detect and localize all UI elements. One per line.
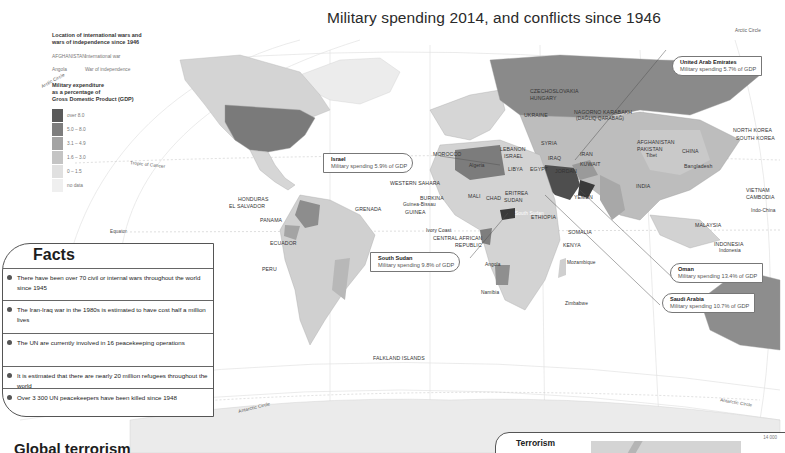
bullet-icon bbox=[7, 307, 12, 312]
label-el-salvador: EL SALVADOR bbox=[229, 203, 265, 209]
wars-legend-heading: Location of international wars and wars … bbox=[52, 32, 202, 46]
callout-uae: United Arab Emirates Military spending 5… bbox=[672, 56, 762, 76]
label-ivory-coast: Ivory Coast bbox=[426, 228, 451, 233]
label-vietnam: VIETNAM bbox=[746, 187, 770, 193]
label-iraq: IRAQ bbox=[548, 155, 561, 161]
terrorism-chart bbox=[591, 441, 741, 453]
label-india: INDIA bbox=[636, 183, 650, 189]
label-grenada: GRENADA bbox=[355, 206, 381, 212]
label-namibia: Namibia bbox=[481, 290, 499, 295]
bullet-icon bbox=[7, 373, 12, 378]
label-algeria: Algeria bbox=[469, 163, 485, 168]
label-cambodia: CAMBODIA bbox=[746, 194, 774, 200]
label-burkina: BURKINA bbox=[420, 195, 444, 201]
swatch bbox=[52, 109, 63, 122]
label-nagorno-karabakh: NAGORNO KARABAKH bbox=[574, 109, 632, 115]
facts-box: Facts There have been over 70 civil or i… bbox=[2, 243, 214, 417]
label-sudan: SUDAN bbox=[504, 197, 523, 203]
label-malaysia: MALAYSIA bbox=[695, 222, 721, 228]
swatch bbox=[52, 165, 63, 178]
label-eritrea: ERITREA bbox=[505, 190, 528, 196]
fact-item: The UN are currently involved in 16 peac… bbox=[3, 333, 213, 363]
label-iran: IRAN bbox=[580, 151, 593, 157]
label-south-korea: SOUTH KOREA bbox=[736, 135, 775, 141]
bullet-icon bbox=[7, 395, 12, 400]
label-kenya: KENYA bbox=[563, 242, 581, 248]
swatch bbox=[52, 179, 63, 192]
label-mozambique: Mozambique bbox=[567, 260, 595, 265]
legend-class: no data bbox=[52, 179, 202, 192]
label-ecuador: ECUADOR bbox=[270, 240, 297, 246]
label-hungary: HUNGARY bbox=[530, 95, 557, 101]
label-morocco: MOROCCO bbox=[433, 151, 461, 157]
label-china: CHINA bbox=[682, 148, 699, 154]
terrorism-panel: Terrorism 14 000 bbox=[495, 432, 785, 453]
legend-class: 1.6 – 3.0 bbox=[52, 151, 202, 164]
fact-item: Over 3 300 UN peacekeepers have been kil… bbox=[3, 388, 213, 418]
label-indonesia-caps: INDONESIA bbox=[714, 241, 743, 247]
label-jordan: JORDAN bbox=[555, 168, 577, 174]
south-sudan bbox=[500, 208, 515, 220]
map-title: Military spending 2014, and conflicts si… bbox=[327, 9, 661, 27]
callout-israel: Israel Military spending 5.9% of GDP bbox=[323, 153, 413, 173]
fact-item: There have been over 70 civil or interna… bbox=[3, 269, 213, 299]
label-angola: Angola bbox=[485, 262, 501, 267]
label-kuwait: KUWAIT bbox=[580, 161, 601, 167]
madagascar bbox=[558, 258, 566, 278]
label-central-african-republic-2: REPUBLIC bbox=[455, 242, 482, 248]
legend-swatches: over 8.0 5.0 – 8.0 3.1 – 4.9 1.6 – 3.0 0… bbox=[52, 109, 202, 192]
namibia bbox=[495, 265, 510, 285]
terrorism-bar bbox=[617, 441, 642, 453]
legend-class: 5.0 – 8.0 bbox=[52, 123, 202, 136]
label-lebanon: LEBANON bbox=[500, 146, 526, 152]
bullet-icon bbox=[7, 275, 12, 280]
label-north-korea: NORTH KOREA bbox=[733, 127, 772, 133]
label-zimbabwe: Zimbabwe bbox=[565, 301, 588, 306]
swatch bbox=[52, 151, 63, 164]
label-ukraine: UKRAINE bbox=[524, 112, 548, 118]
label-falkland-islands: FALKLAND ISLANDS bbox=[373, 355, 425, 361]
facts-title: Facts bbox=[33, 246, 75, 264]
label-indo-china: Indo-China bbox=[751, 208, 775, 213]
bullet-icon bbox=[7, 340, 12, 345]
spending-legend-heading: Military expenditure as a percentage of … bbox=[52, 82, 202, 103]
legend-class: 0 – 1.5 bbox=[52, 165, 202, 178]
indonesia bbox=[650, 215, 720, 248]
arctic-circle-label-right: Arctic Circle bbox=[735, 28, 761, 33]
callout-saudi-arabia: Saudi Arabia Military spending 10.7% of … bbox=[662, 293, 755, 313]
label-honduras: HONDURAS bbox=[238, 196, 269, 202]
label-western-sahara: WESTERN SAHARA bbox=[390, 180, 440, 186]
label-guinea-bissau: Guinea-Bissau bbox=[403, 202, 436, 207]
equator-label: Equator bbox=[110, 229, 127, 234]
fact-item: The Iran-Iraq war in the 1980s is estima… bbox=[3, 300, 213, 330]
label-mali: MALI bbox=[468, 193, 481, 199]
label-chad: CHAD bbox=[486, 195, 501, 201]
label-libya: LIBYA bbox=[508, 166, 523, 172]
terrorism-axis-top: 14 000 bbox=[763, 435, 777, 440]
label-somalia: SOMALIA bbox=[568, 229, 592, 235]
label-indonesia: Indonesia bbox=[719, 248, 741, 253]
label-panama: PANAMA bbox=[260, 217, 282, 223]
label-central-african-republic: CENTRAL AFRICAN bbox=[433, 235, 482, 241]
mexico-central-america bbox=[250, 150, 295, 190]
legend-class: over 8.0 bbox=[52, 109, 202, 122]
label-egypt: EGYPT bbox=[530, 166, 548, 172]
legend-class: 3.1 – 4.9 bbox=[52, 137, 202, 150]
label-guinea: GUINEA bbox=[405, 209, 426, 215]
swatch bbox=[52, 137, 63, 150]
label-tibet: Tibet bbox=[646, 153, 657, 158]
label-nagorno-sub: (DAĞLIQ QARABAĞ) bbox=[576, 116, 624, 121]
label-yemen: YEMEN bbox=[574, 194, 593, 200]
terrorism-title: Terrorism bbox=[516, 438, 555, 448]
label-pakistan: PAKISTAN bbox=[637, 146, 663, 152]
label-south-sudan: South Sudan bbox=[515, 211, 544, 216]
callout-oman: Oman Military spending 13.4% of GDP bbox=[670, 263, 763, 283]
label-peru: PERU bbox=[262, 266, 277, 272]
label-israel: ISRAEL bbox=[504, 153, 523, 159]
label-afghanistan: AFGHANISTAN bbox=[637, 139, 675, 145]
label-bangladesh: Bangladesh bbox=[684, 163, 712, 169]
callout-south-sudan: South Sudan Military spending 9.8% of GD… bbox=[370, 252, 460, 272]
label-syria: SYRIA bbox=[541, 140, 557, 146]
south-america bbox=[280, 195, 375, 345]
global-terrorism-heading: Global terrorism bbox=[14, 440, 131, 453]
